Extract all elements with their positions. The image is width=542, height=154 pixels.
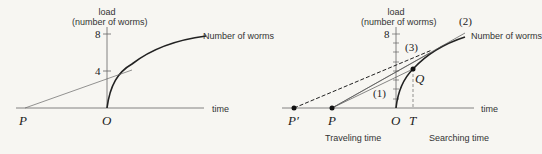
line-1-label: (1) [373, 88, 386, 99]
searching-time-label: Searching time [429, 133, 489, 143]
point-P-prime-dot [292, 106, 297, 111]
left-tangent-line [25, 70, 132, 108]
left-x-axis-label: time [212, 104, 229, 114]
right-curve-label: Number of worms [471, 31, 542, 41]
traveling-time-label: Traveling time [325, 133, 381, 143]
line-2-label: (2) [459, 16, 472, 27]
left-graph [16, 27, 206, 108]
right-y-axis-label: load (number of worms) [361, 7, 431, 27]
line-3-label: (3) [405, 42, 418, 53]
right-point-T-label: T [409, 114, 416, 127]
left-worm-curve [107, 36, 206, 108]
right-x-axis-label: time [481, 104, 498, 114]
left-y-label-line2: (number of worms) [72, 17, 142, 27]
left-y-label-line1: load [72, 7, 142, 17]
left-tick-label-8: 8 [95, 29, 101, 40]
left-tick-label-4: 4 [95, 66, 101, 77]
left-y-axis-label: load (number of worms) [72, 7, 142, 27]
point-Q-label: Q [415, 72, 424, 85]
point-P-dot [330, 106, 335, 111]
right-tick-label-8: 8 [384, 29, 390, 40]
left-point-O-label: O [102, 114, 111, 127]
right-y-label-line1: load [361, 7, 431, 17]
right-point-P-label: P [328, 114, 336, 127]
right-y-label-line2: (number of worms) [361, 17, 431, 27]
dashed-tangent [294, 50, 432, 108]
left-point-P-label: P [19, 114, 27, 127]
left-curve-label: Number of worms [203, 31, 274, 41]
right-point-P-prime-label: P′ [288, 114, 299, 127]
right-point-O-label: O [391, 114, 400, 127]
